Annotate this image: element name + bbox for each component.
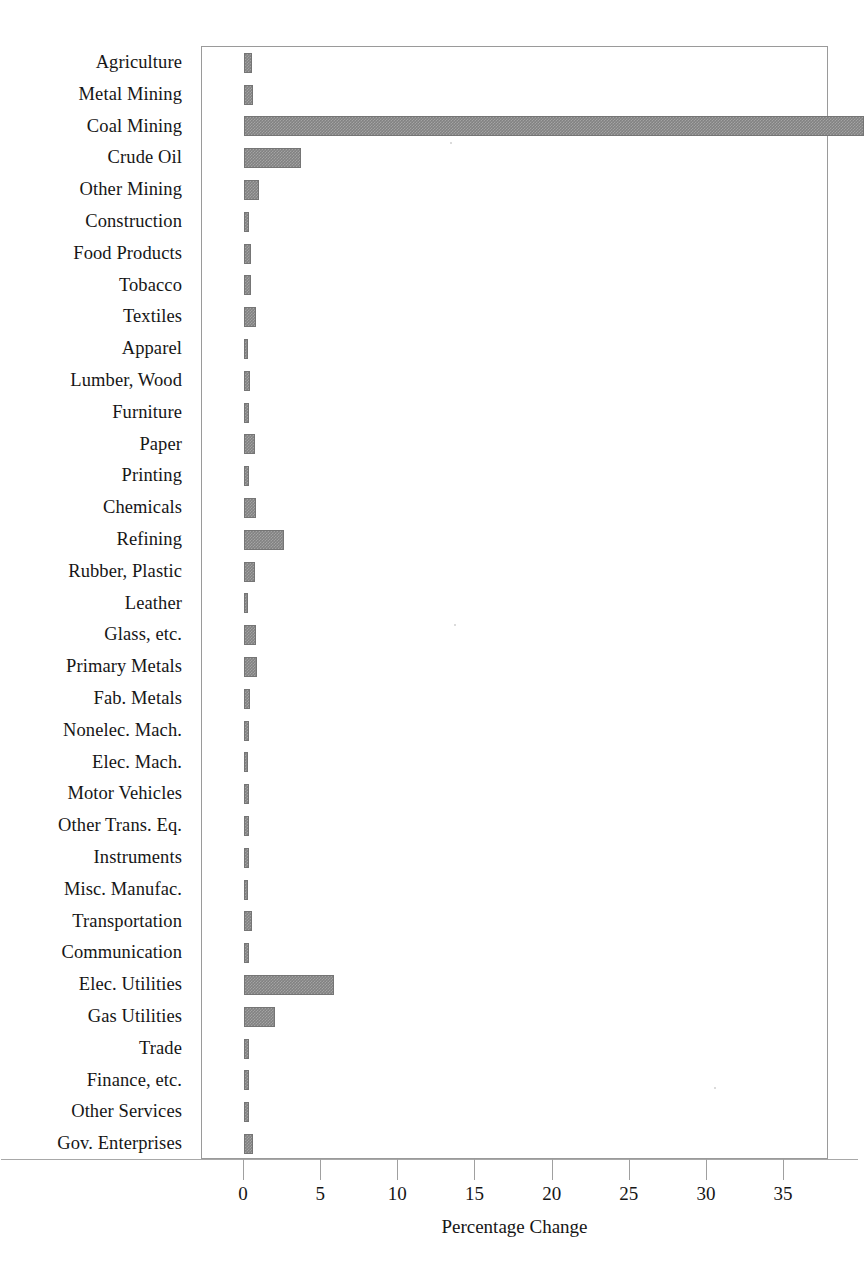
category-label: Communication [0,936,182,968]
bar-row [202,969,827,1001]
bar [244,85,253,105]
bar [244,275,251,295]
bar-row [202,778,827,810]
category-label: Primary Metals [0,650,182,682]
x-tick [783,1159,784,1180]
bar-row [202,301,827,333]
bar-row [202,1128,827,1160]
bar-row [202,142,827,174]
bar [244,180,259,200]
category-label: Lumber, Wood [0,364,182,396]
bar [244,371,250,391]
bar [244,1134,253,1154]
bar-row [202,174,827,206]
category-label: Printing [0,459,182,491]
bar-row [202,460,827,492]
category-label: Gov. Enterprises [0,1127,182,1159]
bar-row [202,588,827,620]
bar-row [202,333,827,365]
bar [244,1070,249,1090]
category-label: Furniture [0,396,182,428]
bar-row [202,365,827,397]
bar-row [202,1065,827,1097]
bar [244,593,248,613]
bar-row [202,651,827,683]
x-tick-label: 35 [753,1183,813,1205]
category-label: Nonelec. Mach. [0,714,182,746]
category-label: Finance, etc. [0,1064,182,1096]
bar [244,434,255,454]
category-label: Gas Utilities [0,1000,182,1032]
bar [244,530,284,550]
category-label: Apparel [0,332,182,364]
bar [244,466,249,486]
bar [244,911,252,931]
bar [244,752,248,772]
bar-row [202,1001,827,1033]
category-label: Motor Vehicles [0,777,182,809]
category-label: Instruments [0,841,182,873]
bar-row [202,111,827,143]
category-label: Tobacco [0,269,182,301]
bar [244,116,864,136]
bar [244,689,250,709]
category-label: Crude Oil [0,141,182,173]
bar [244,498,256,518]
bar-row [202,79,827,111]
x-tick-label: 30 [676,1183,736,1205]
bar [244,244,251,264]
bar [244,307,256,327]
bar-row [202,270,827,302]
bar-row [202,1096,827,1128]
category-label: Paper [0,428,182,460]
x-tick [706,1159,707,1180]
x-tick [397,1159,398,1180]
bar [244,816,249,836]
bar [244,848,249,868]
category-label: Chemicals [0,491,182,523]
bar [244,403,249,423]
x-tick [243,1159,244,1180]
x-tick-label: 10 [367,1183,427,1205]
bar-row [202,715,827,747]
bar [244,880,248,900]
category-label: Metal Mining [0,78,182,110]
bar [244,53,252,73]
bar-row [202,206,827,238]
x-tick-label: 25 [599,1183,659,1205]
category-label: Transportation [0,905,182,937]
bar-row [202,906,827,938]
bar-row [202,937,827,969]
bar-row [202,556,827,588]
plot-area [202,47,827,1158]
bar [244,1102,249,1122]
bar [244,1039,249,1059]
bar [244,212,249,232]
plot-frame [201,46,828,1159]
category-label: Other Services [0,1095,182,1127]
x-axis-title: Percentage Change [201,1216,828,1238]
bar [244,1007,275,1027]
bar [244,784,249,804]
x-tick [474,1159,475,1180]
x-axis-line [1,1159,858,1160]
x-tick [629,1159,630,1180]
x-tick [552,1159,553,1180]
bar [244,721,249,741]
category-label: Elec. Mach. [0,746,182,778]
bar-row [202,1033,827,1065]
bar [244,943,249,963]
category-label: Fab. Metals [0,682,182,714]
category-label: Construction [0,205,182,237]
category-label: Trade [0,1032,182,1064]
x-tick-label: 5 [290,1183,350,1205]
bar-row [202,810,827,842]
bar [244,975,334,995]
bar-row [202,842,827,874]
category-label: Misc. Manufac. [0,873,182,905]
bar-row [202,238,827,270]
category-label: Elec. Utilities [0,968,182,1000]
category-label: Leather [0,587,182,619]
scan-speck [454,624,456,626]
